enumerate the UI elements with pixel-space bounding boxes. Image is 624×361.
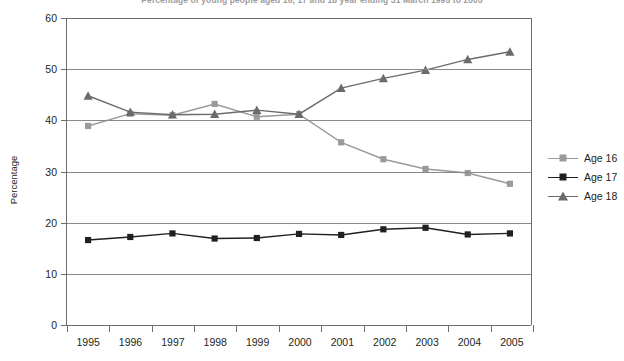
legend-square-icon bbox=[548, 171, 578, 183]
y-axis-tick bbox=[61, 223, 67, 224]
x-axis-tick bbox=[109, 325, 110, 332]
data-point-marker bbox=[338, 232, 344, 238]
legend-item-label: Age 17 bbox=[584, 171, 617, 183]
x-axis-tick bbox=[194, 325, 195, 332]
legend-item[interactable]: Age 18 bbox=[548, 186, 617, 205]
legend-item-label: Age 16 bbox=[584, 152, 617, 164]
x-axis-tick bbox=[364, 325, 365, 332]
gridline bbox=[67, 18, 531, 19]
legend-marker bbox=[560, 154, 567, 161]
x-axis-tick-label: 1998 bbox=[204, 336, 227, 348]
data-point-marker bbox=[507, 181, 513, 187]
data-point-marker bbox=[507, 230, 513, 236]
x-axis-tick-label: 1999 bbox=[246, 336, 269, 348]
y-axis-tick bbox=[61, 274, 67, 275]
x-axis-tick-label: 2002 bbox=[373, 336, 396, 348]
y-axis-tick bbox=[61, 172, 67, 173]
data-point-marker bbox=[380, 156, 386, 162]
x-axis-tick bbox=[236, 325, 237, 332]
data-point-marker bbox=[338, 139, 344, 145]
x-axis-tick bbox=[152, 325, 153, 332]
x-axis-tick-label: 2003 bbox=[415, 336, 438, 348]
data-point-marker bbox=[212, 101, 218, 107]
y-axis-title: Percentage bbox=[6, 125, 20, 235]
data-point-marker bbox=[296, 231, 302, 237]
x-axis-tick-label: 1996 bbox=[119, 336, 142, 348]
y-axis-tick-label: 50 bbox=[45, 63, 57, 75]
x-axis-tick-label: 2000 bbox=[288, 336, 311, 348]
legend-square-icon bbox=[548, 152, 578, 164]
data-point-marker bbox=[85, 123, 91, 129]
gridline bbox=[67, 223, 531, 224]
chart-root: Percentage of young people aged 16, 17 a… bbox=[0, 0, 624, 361]
y-axis-tick bbox=[61, 120, 67, 121]
y-axis-tick-label: 10 bbox=[45, 268, 57, 280]
data-point-marker bbox=[254, 235, 260, 241]
data-point-marker bbox=[380, 226, 386, 232]
plot-area: 0102030405060199519961997199819992000200… bbox=[66, 18, 532, 325]
gridline bbox=[67, 172, 531, 173]
gridline bbox=[67, 120, 531, 121]
data-point-marker bbox=[422, 225, 428, 231]
chart-legend: Age 16Age 17Age 18 bbox=[548, 148, 617, 205]
x-axis-tick-label: 1997 bbox=[161, 336, 184, 348]
y-axis-tick-label: 20 bbox=[45, 217, 57, 229]
chart-title: Percentage of young people aged 16, 17 a… bbox=[0, 0, 624, 6]
legend-item-label: Age 18 bbox=[584, 190, 617, 202]
x-axis-tick bbox=[279, 325, 280, 332]
y-axis-tick-label: 40 bbox=[45, 114, 57, 126]
y-axis-tick-label: 60 bbox=[45, 12, 57, 24]
data-point-marker bbox=[465, 231, 471, 237]
x-axis-tick bbox=[406, 325, 407, 332]
y-axis-tick bbox=[61, 18, 67, 19]
gridline bbox=[67, 69, 531, 70]
x-axis-tick bbox=[67, 325, 68, 332]
data-point-marker bbox=[254, 114, 260, 120]
x-axis-tick bbox=[533, 325, 534, 332]
y-axis-tick bbox=[61, 69, 67, 70]
x-axis-tick-label: 2001 bbox=[331, 336, 354, 348]
legend-triangle-icon bbox=[548, 190, 578, 202]
legend-item[interactable]: Age 16 bbox=[548, 148, 617, 167]
series-line bbox=[88, 52, 510, 115]
data-point-marker bbox=[212, 235, 218, 241]
data-point-marker bbox=[85, 237, 91, 243]
data-point-marker bbox=[84, 91, 93, 100]
data-point-marker bbox=[127, 234, 133, 240]
legend-marker bbox=[560, 173, 567, 180]
x-axis-tick-label: 2005 bbox=[500, 336, 523, 348]
x-axis-tick bbox=[491, 325, 492, 332]
x-axis-tick-label: 1995 bbox=[76, 336, 99, 348]
legend-marker bbox=[558, 191, 568, 200]
y-axis-tick-label: 0 bbox=[51, 319, 57, 331]
y-axis-tick-label: 30 bbox=[45, 166, 57, 178]
x-axis-tick-label: 2004 bbox=[458, 336, 481, 348]
gridline bbox=[67, 325, 531, 326]
data-point-marker bbox=[169, 230, 175, 236]
legend-item[interactable]: Age 17 bbox=[548, 167, 617, 186]
data-point-marker bbox=[505, 47, 514, 56]
gridline bbox=[67, 274, 531, 275]
x-axis-tick bbox=[321, 325, 322, 332]
y-axis-title-label: Percentage bbox=[8, 156, 19, 205]
x-axis-tick bbox=[448, 325, 449, 332]
